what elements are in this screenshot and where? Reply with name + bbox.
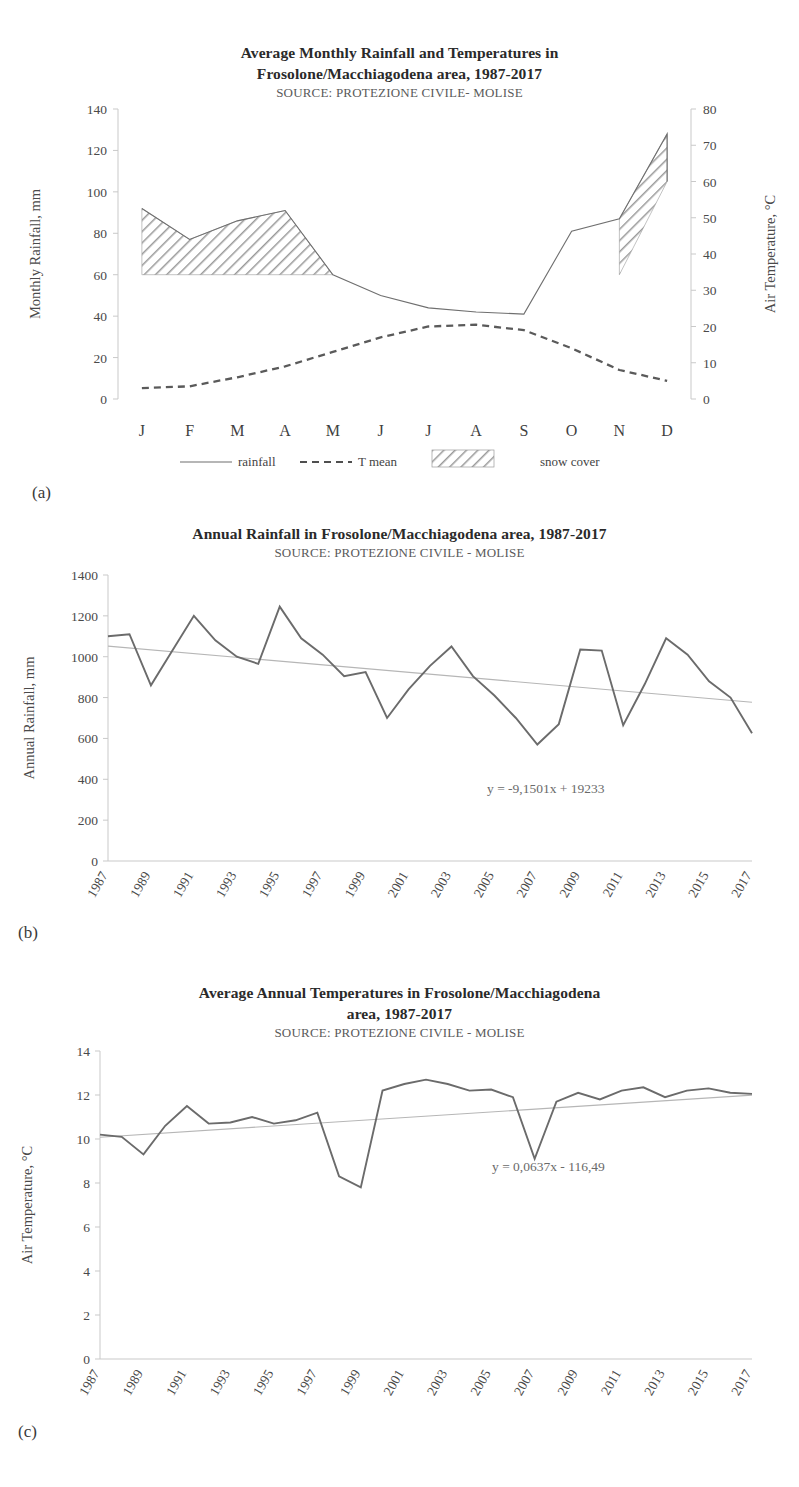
figure-a-month-label: A bbox=[470, 422, 482, 439]
svg-c-x-tick-label: 2013 bbox=[641, 1367, 668, 1398]
axis-text: 70 bbox=[703, 138, 717, 153]
svg-c-x-tick-label: 1987 bbox=[76, 1367, 103, 1398]
figure-c-title-line2: area, 1987-2017 bbox=[0, 1003, 799, 1024]
figure-b-panel-label: (b) bbox=[18, 923, 38, 943]
axis-text: 40 bbox=[94, 309, 108, 324]
svg-c-x-tick-label: 1999 bbox=[337, 1367, 364, 1398]
svg-c-x-tick-label: 2017 bbox=[728, 1367, 755, 1398]
svg-b-x-tick-label: 1997 bbox=[299, 869, 326, 900]
figure-b-source: SOURCE: PROTEZIONE CIVILE - MOLISE bbox=[0, 544, 799, 561]
svg-b-x-tick-label: 2011 bbox=[600, 869, 626, 899]
axis-text: 8 bbox=[83, 1176, 90, 1191]
svg-c-ylabel: Air Temperature, °C bbox=[19, 1146, 35, 1264]
axis-text: 1000 bbox=[71, 650, 98, 665]
svg-b-x-tick-label: 2007 bbox=[513, 869, 540, 900]
axis-text: 40 bbox=[703, 247, 717, 262]
axis-text: 800 bbox=[78, 691, 99, 706]
figure-a-series-tmean bbox=[142, 325, 667, 388]
svg-b-x-tick-label: 2017 bbox=[728, 869, 755, 900]
svg-c-x-tick-label: 2009 bbox=[554, 1367, 581, 1398]
svg-c-x-tick-label: 1993 bbox=[207, 1367, 234, 1398]
svg-c-x-tick-label: 2005 bbox=[467, 1367, 494, 1398]
figure-a-snow-cover-area-december bbox=[619, 134, 667, 275]
axis-text: 30 bbox=[703, 283, 717, 298]
figure-a-ylabel: Monthly Rainfall, mm bbox=[27, 188, 43, 319]
figure-a-title-line2: Frosolone/Macchiagodena area, 1987-2017 bbox=[0, 63, 799, 84]
svg-c-x-tick-label: 1995 bbox=[250, 1367, 277, 1398]
figure-c-title-line1: Average Annual Temperatures in Frosolone… bbox=[0, 982, 799, 1003]
legend-swatch-snow-cover bbox=[432, 450, 494, 467]
figure-c-source: SOURCE: PROTEZIONE CIVILE - MOLISE bbox=[0, 1024, 799, 1041]
axis-text: 60 bbox=[94, 268, 108, 283]
axis-text: 20 bbox=[94, 351, 108, 366]
svg-b-x-tick-label: 2005 bbox=[471, 869, 498, 900]
axis-text: 0 bbox=[703, 392, 710, 407]
svg-b-x-tick-label: 2013 bbox=[642, 869, 669, 900]
svg-b-trendline-equation: y = -9,1501x + 19233 bbox=[487, 781, 605, 796]
figure-a-month-label: O bbox=[566, 422, 578, 439]
legend-label-tmean: T mean bbox=[358, 454, 398, 469]
svg-b-series-line bbox=[108, 607, 752, 745]
figure-a-month-label: D bbox=[661, 422, 673, 439]
axis-text: 2 bbox=[83, 1308, 90, 1323]
svg-b-x-tick-label: 1989 bbox=[127, 869, 154, 900]
axis-text: 6 bbox=[83, 1220, 90, 1235]
figure-c-plot: 02468101214y = 0,0637x - 116,49198719891… bbox=[0, 1041, 799, 1441]
svg-b-x-tick-label: 2003 bbox=[428, 869, 455, 900]
figure-a-monthly-rainfall-temperature: Average Monthly Rainfall and Temperature… bbox=[0, 0, 799, 505]
axis-text: 0 bbox=[100, 392, 107, 407]
axis-text: 20 bbox=[703, 320, 717, 335]
figure-a-source: SOURCE: PROTEZIONE CIVILE- MOLISE bbox=[0, 84, 799, 101]
figure-a-month-label: J bbox=[425, 422, 431, 439]
svg-c-x-tick-label: 1989 bbox=[120, 1367, 147, 1398]
axis-text: 140 bbox=[87, 102, 108, 117]
svg-c-series-line bbox=[100, 1080, 752, 1188]
svg-c-x-tick-label: 2015 bbox=[685, 1367, 712, 1398]
svg-b-x-tick-label: 2001 bbox=[385, 869, 411, 900]
figure-a-month-label: F bbox=[185, 422, 194, 439]
figure-a-panel-label: (a) bbox=[32, 483, 51, 503]
axis-text: 10 bbox=[703, 356, 717, 371]
figure-a-plot: 02040608010012014001020304050607080Month… bbox=[0, 101, 799, 471]
axis-text: 80 bbox=[94, 226, 108, 241]
axis-text: 50 bbox=[703, 211, 717, 226]
axis-text: 14 bbox=[77, 1044, 91, 1059]
svg-b-x-tick-label: 2009 bbox=[556, 869, 583, 900]
axis-text: 100 bbox=[87, 185, 108, 200]
figure-b-canvas: 0200400600800100012001400y = -9,1501x + … bbox=[0, 561, 799, 951]
figure-a-month-label: J bbox=[139, 422, 145, 439]
svg-c-trendline bbox=[100, 1095, 752, 1137]
figure-a-y2label: Air Temperature, °C bbox=[762, 195, 778, 313]
svg-b-x-tick-label: 1993 bbox=[213, 869, 240, 900]
svg-b-x-tick-label: 1995 bbox=[256, 869, 283, 900]
axis-text: 0 bbox=[83, 1352, 90, 1367]
svg-b-x-tick-label: 1991 bbox=[170, 869, 196, 900]
svg-b-x-tick-label: 1999 bbox=[342, 869, 369, 900]
axis-text: 0 bbox=[91, 854, 98, 869]
figure-a-month-label: M bbox=[326, 422, 340, 439]
axis-text: 1400 bbox=[71, 568, 98, 583]
svg-c-trendline-equation: y = 0,0637x - 116,49 bbox=[492, 1159, 605, 1174]
svg-c-x-tick-label: 2011 bbox=[598, 1367, 624, 1397]
figure-a-month-label: J bbox=[378, 422, 384, 439]
figure-a-canvas: 02040608010012014001020304050607080Month… bbox=[0, 101, 799, 471]
axis-text: 120 bbox=[87, 143, 108, 158]
svg-c-x-tick-label: 2001 bbox=[380, 1367, 406, 1398]
axis-text: 12 bbox=[77, 1088, 91, 1103]
figure-a-month-label: M bbox=[230, 422, 244, 439]
axis-text: 4 bbox=[83, 1264, 90, 1279]
svg-c-x-tick-label: 2007 bbox=[511, 1367, 538, 1398]
figure-c-panel-label: (c) bbox=[18, 1422, 37, 1442]
figure-b-title: Annual Rainfall in Frosolone/Macchiagode… bbox=[0, 523, 799, 544]
svg-b-x-tick-label: 2015 bbox=[685, 869, 712, 900]
figure-c-annual-temperature: Average Annual Temperatures in Frosolone… bbox=[0, 960, 799, 1487]
figure-a-month-label: A bbox=[279, 422, 291, 439]
svg-c-x-tick-label: 1997 bbox=[293, 1367, 320, 1398]
axis-text: 400 bbox=[78, 772, 99, 787]
svg-c-x-tick-label: 2003 bbox=[424, 1367, 451, 1398]
svg-c-x-tick-label: 1991 bbox=[163, 1367, 189, 1398]
axis-text: 80 bbox=[703, 102, 717, 117]
legend-label-snow-cover: snow cover bbox=[540, 454, 600, 469]
axis-text: 60 bbox=[703, 175, 717, 190]
figure-c-canvas: 02468101214y = 0,0637x - 116,49198719891… bbox=[0, 1041, 799, 1441]
